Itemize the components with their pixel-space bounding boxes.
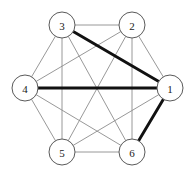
node-label-4: 4 xyxy=(22,83,28,95)
node-label-1: 1 xyxy=(167,83,173,95)
edge-3-4 xyxy=(32,36,56,77)
edge-1-5 xyxy=(73,95,159,146)
node-5[interactable]: 5 xyxy=(49,139,75,165)
node-6[interactable]: 6 xyxy=(119,139,145,165)
node-4[interactable]: 4 xyxy=(12,75,38,101)
edge-1-3 xyxy=(73,32,159,82)
node-label-5: 5 xyxy=(59,147,65,159)
node-3[interactable]: 3 xyxy=(49,12,75,38)
edge-4-5 xyxy=(32,99,56,140)
graph-canvas: 123456 xyxy=(0,0,194,177)
edge-2-4 xyxy=(36,32,121,82)
node-1[interactable]: 1 xyxy=(157,75,183,101)
edge-1-6 xyxy=(139,99,164,141)
graph-figure: 123456 xyxy=(0,0,194,177)
node-2[interactable]: 2 xyxy=(119,12,145,38)
node-label-2: 2 xyxy=(129,20,135,32)
bold-edge-layer xyxy=(38,32,163,141)
node-label-3: 3 xyxy=(59,20,65,32)
node-label-6: 6 xyxy=(129,147,135,159)
edge-4-6 xyxy=(36,95,121,146)
